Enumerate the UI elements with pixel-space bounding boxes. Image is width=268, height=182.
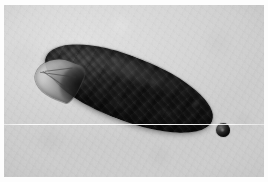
specimen [30,29,230,149]
particle-highlight [220,128,225,132]
specimen-photograph: Dark elongate insect specimen on pale su… [0,0,268,182]
scan-line-artifact [4,124,264,125]
photo-field [4,5,264,177]
